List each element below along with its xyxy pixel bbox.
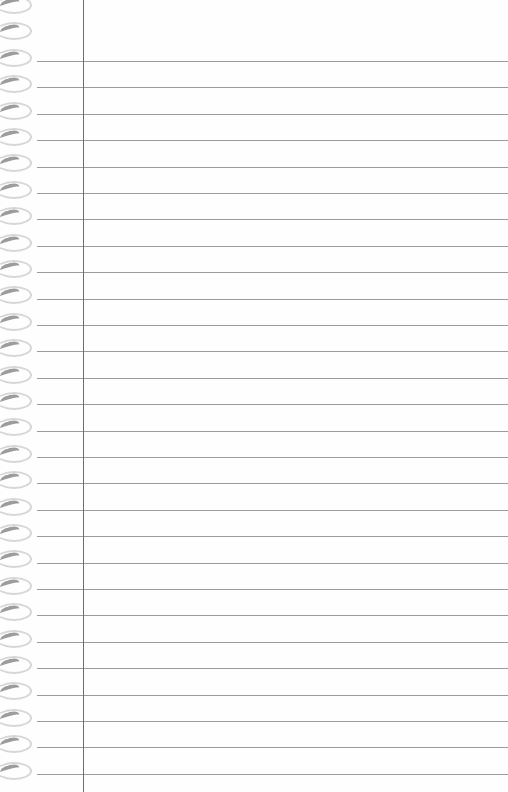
ruled-line [37,774,508,775]
spiral-ring-icon [0,550,32,568]
spiral-ring-icon [0,49,32,67]
ruled-line [37,431,508,432]
spiral-ring-icon [0,181,32,199]
spiral-ring-icon [0,260,32,278]
spiral-ring-icon [0,339,32,357]
ruled-line [37,563,508,564]
ruled-line [37,642,508,643]
ruled-line [37,668,508,669]
ruled-line [37,747,508,748]
ruled-line [37,351,508,352]
spiral-ring-icon [0,207,32,225]
notebook-page [0,0,508,792]
spiral-ring-icon [0,418,32,436]
ruled-line [37,140,508,141]
ruled-line [37,721,508,722]
spiral-ring-icon [0,709,32,727]
spiral-ring-icon [0,445,32,463]
spiral-ring-icon [0,154,32,172]
spiral-ring-icon [0,234,32,252]
spiral-ring-icon [0,603,32,621]
ruled-line [37,167,508,168]
ruled-line [37,61,508,62]
spiral-ring-icon [0,762,32,780]
spiral-ring-icon [0,524,32,542]
ruled-line [37,193,508,194]
ruled-line [37,87,508,88]
ruled-line [37,246,508,247]
spiral-ring-icon [0,22,32,40]
ruled-line [37,325,508,326]
spiral-ring-icon [0,75,32,93]
spiral-ring-icon [0,577,32,595]
ruled-line [37,114,508,115]
margin-line [83,0,84,792]
ruled-line [37,219,508,220]
ruled-line [37,615,508,616]
spiral-ring-icon [0,366,32,384]
ruled-line [37,589,508,590]
spiral-ring-icon [0,682,32,700]
ruled-line [37,457,508,458]
ruled-line [37,272,508,273]
ruled-line [37,299,508,300]
spiral-ring-icon [0,471,32,489]
spiral-ring-icon [0,392,32,410]
spiral-ring-icon [0,102,32,120]
spiral-ring-icon [0,498,32,516]
spiral-ring-icon [0,630,32,648]
ruled-line [37,378,508,379]
spiral-ring-icon [0,286,32,304]
spiral-ring-icon [0,656,32,674]
ruled-line [37,695,508,696]
ruled-line [37,404,508,405]
ruled-line [37,483,508,484]
ruled-line [37,536,508,537]
spiral-ring-icon [0,735,32,753]
spiral-ring-icon [0,313,32,331]
spiral-ring-icon [0,128,32,146]
ruled-line [37,510,508,511]
spiral-ring-icon [0,0,32,14]
